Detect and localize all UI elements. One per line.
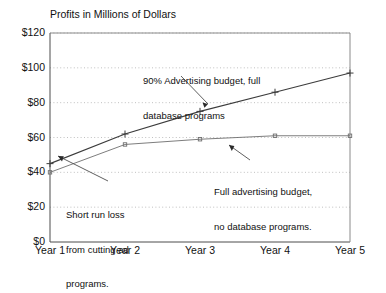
data-point-marker [272,89,279,96]
data-point-marker [122,131,129,138]
annotation-line: Full advertising budget, [214,186,312,198]
annotation-line: 90% Advertising budget, full [143,75,260,87]
y-axis-tick-label: $120 [3,26,45,38]
annotation-line: database programs [143,110,260,122]
data-point-marker [47,160,54,167]
annotation-line: Short run loss [66,209,129,221]
annotation-upper-series: 90% Advertising budget, full database pr… [143,52,260,144]
y-axis-tick-label: $100 [3,61,45,73]
chart-title: Profits in Millions of Dollars [50,8,176,20]
annotation-line: programs. [66,278,129,290]
y-axis-tick-label: $20 [3,200,45,212]
y-axis-tick-label: $80 [3,96,45,108]
leader-arrow-left [58,156,64,162]
annotation-line: no database programs. [214,221,312,233]
annotation-short-run-loss: Short run loss from cutting ad programs. [66,186,129,293]
x-axis-tick-label: Year 5 [320,244,380,256]
y-axis-tick-label: $40 [3,165,45,177]
annotation-lower-series: Full advertising budget, no database pro… [214,163,312,255]
y-axis-tick-label: $60 [3,131,45,143]
data-point-marker [347,70,354,77]
annotation-line: from cutting ad [66,244,129,256]
